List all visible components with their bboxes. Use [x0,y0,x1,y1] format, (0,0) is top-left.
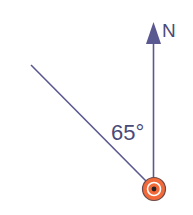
angle-label: 65° [111,120,144,145]
north-label: N [162,20,176,41]
origin-point [143,178,166,201]
bearing-diagram: N 65° [0,0,193,215]
north-arrow-icon [146,22,161,44]
